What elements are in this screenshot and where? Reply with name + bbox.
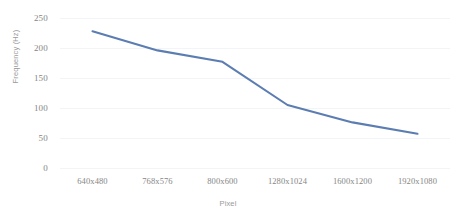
gridline bbox=[60, 168, 450, 169]
series-frequency bbox=[60, 18, 450, 168]
x-axis-tick-label: 768x576 bbox=[125, 175, 190, 191]
x-axis-tick-label: 1280x1024 bbox=[255, 175, 320, 191]
y-axis-tick-labels: 250200150100500 bbox=[0, 0, 56, 218]
y-axis-tick-label: 250 bbox=[34, 13, 48, 23]
plot-area bbox=[60, 18, 450, 168]
x-axis-tick-label: 1600x1200 bbox=[320, 175, 385, 191]
x-axis-tick-label: 800x600 bbox=[190, 175, 255, 191]
y-axis-tick-label: 50 bbox=[39, 133, 48, 143]
x-axis-tick-label: 1920x1080 bbox=[385, 175, 450, 191]
x-axis-tick-labels: 640x480768x576800x6001280x10241600x12001… bbox=[60, 175, 450, 191]
x-axis-tick-label: 640x480 bbox=[60, 175, 125, 191]
x-axis-title: Pixel bbox=[0, 199, 456, 208]
y-axis-tick-label: 0 bbox=[43, 163, 48, 173]
line-chart: Frequency (Hz) 250200150100500 640x48076… bbox=[0, 0, 456, 218]
series-line-frequency bbox=[93, 31, 418, 134]
y-axis-tick-label: 200 bbox=[34, 43, 48, 53]
y-axis-tick-label: 150 bbox=[34, 73, 48, 83]
y-axis-tick-label: 100 bbox=[34, 103, 48, 113]
